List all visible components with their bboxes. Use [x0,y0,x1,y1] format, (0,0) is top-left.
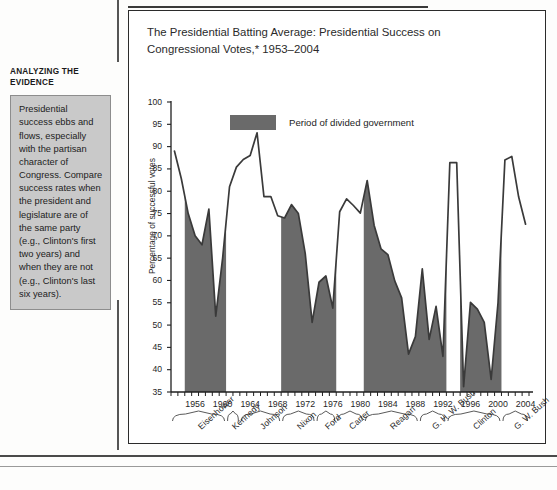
sidebar-heading: ANALYZING THE EVIDENCE [10,66,110,88]
divided-government-bands [185,102,502,392]
y-tick-label: 40 [138,364,162,374]
sidebar-body-text: Presidential success ebbs and flows, esp… [19,103,103,301]
legend-swatch-divided-government [230,115,276,130]
y-tick-label: 90 [138,141,162,151]
y-tick-label: 65 [138,253,162,263]
plot-area: Percentage of successful votes 354045505… [129,11,547,445]
y-tick-label: 85 [138,163,162,173]
page-rule-left-upper [117,0,119,62]
y-tick-label: 55 [138,297,162,307]
chart-panel: The Presidential Batting Average: Presid… [128,10,546,444]
analyzing-the-evidence-sidebar: ANALYZING THE EVIDENCE Presidential succ… [10,66,110,310]
chart-legend: Period of divided government [230,115,414,130]
y-tick-label: 75 [138,208,162,218]
sidebar-callout-box: Presidential success ebbs and flows, esp… [10,95,111,310]
y-tick-label: 70 [138,230,162,240]
legend-label-divided-government: Period of divided government [289,117,414,128]
y-tick-label: 60 [138,275,162,285]
y-tick-label: 100 [138,97,162,107]
y-tick-label: 95 [138,119,162,129]
y-tick-label: 80 [138,186,162,196]
page-rule-left-lower [117,300,119,450]
chart-svg [129,11,547,445]
page-rule-bottom [0,455,557,457]
page-background: ANALYZING THE EVIDENCE Presidential succ… [0,0,557,490]
y-tick-label: 50 [138,320,162,330]
y-tick-label: 45 [138,342,162,352]
page-rule-top [128,6,428,8]
page-rule-bottom-secondary [0,466,557,467]
y-tick-label: 35 [138,387,162,397]
